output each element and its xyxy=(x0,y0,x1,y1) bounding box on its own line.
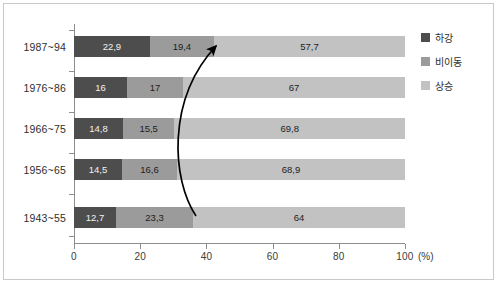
bar-row: 12,723,364 xyxy=(74,207,405,228)
y-tick-mark xyxy=(69,71,74,72)
legend-label: 비이동 xyxy=(435,54,462,69)
legend-label: 하강 xyxy=(435,30,453,45)
bar-segment-상승 xyxy=(214,36,405,57)
x-tick-label: 80 xyxy=(333,251,345,262)
x-tick-label: 40 xyxy=(201,251,213,262)
x-tick-mark xyxy=(339,244,340,249)
legend-swatch-icon xyxy=(421,81,430,90)
legend-swatch-icon xyxy=(421,57,430,66)
chart-figure: 020406080100 1987~941976~861966~751956~6… xyxy=(0,0,497,283)
bar-row: 22,919,457,7 xyxy=(74,36,405,57)
y-tick-mark xyxy=(69,112,74,113)
category-label-4: 1943~55 xyxy=(23,212,66,224)
bar-segment-비이동 xyxy=(123,118,174,139)
bar-segment-상승 xyxy=(193,207,405,228)
bar-segment-하강 xyxy=(74,36,150,57)
bar-segment-상승 xyxy=(177,159,405,180)
bar-segment-상승 xyxy=(183,77,405,98)
x-tick-label: 0 xyxy=(71,251,77,262)
bar-segment-비이동 xyxy=(150,36,214,57)
x-tick-mark xyxy=(405,244,406,249)
x-axis-unit-label: (%) xyxy=(418,251,434,262)
bar-segment-비이동 xyxy=(127,77,183,98)
y-tick-mark xyxy=(69,30,74,31)
y-tick-mark xyxy=(69,236,74,237)
y-tick-mark xyxy=(69,153,74,154)
bar-segment-하강 xyxy=(74,159,122,180)
bar-row: 14,516,668,9 xyxy=(74,159,405,180)
x-axis-line xyxy=(74,243,405,244)
bar-segment-하강 xyxy=(74,118,123,139)
bar-segment-상승 xyxy=(174,118,405,139)
x-tick-label: 60 xyxy=(267,251,279,262)
legend-item-1[interactable]: 비이동 xyxy=(421,54,491,69)
x-tick-mark xyxy=(140,244,141,249)
legend-item-0[interactable]: 하강 xyxy=(421,30,491,45)
bar-segment-하강 xyxy=(74,207,116,228)
legend-label: 상승 xyxy=(435,78,453,93)
bar-segment-하강 xyxy=(74,77,127,98)
bar-segment-비이동 xyxy=(116,207,193,228)
chart-legend: 하강비이동상승 xyxy=(421,30,491,102)
bar-row: 14,815,569,8 xyxy=(74,118,405,139)
x-tick-mark xyxy=(206,244,207,249)
x-tick-mark xyxy=(273,244,274,249)
category-label-3: 1956~65 xyxy=(23,164,66,176)
y-tick-mark xyxy=(69,194,74,195)
category-label-1: 1976~86 xyxy=(23,82,66,94)
x-tick-label: 100 xyxy=(396,251,413,262)
legend-item-2[interactable]: 상승 xyxy=(421,78,491,93)
category-label-0: 1987~94 xyxy=(23,41,66,53)
category-label-2: 1966~75 xyxy=(23,123,66,135)
x-tick-mark xyxy=(74,244,75,249)
x-tick-label: 20 xyxy=(134,251,146,262)
bar-row: 161767 xyxy=(74,77,405,98)
bar-segment-비이동 xyxy=(122,159,177,180)
legend-swatch-icon xyxy=(421,33,430,42)
